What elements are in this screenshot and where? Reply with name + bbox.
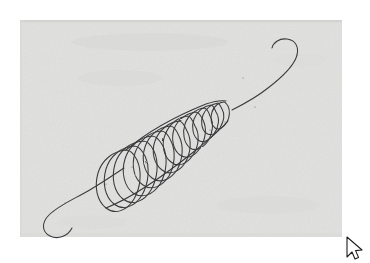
scan-area-left-edge: [20, 20, 23, 237]
screenshot-canvas: [0, 0, 370, 263]
scanned-drawing-surface: [0, 0, 370, 263]
scan-area-top-edge: [20, 20, 342, 24]
